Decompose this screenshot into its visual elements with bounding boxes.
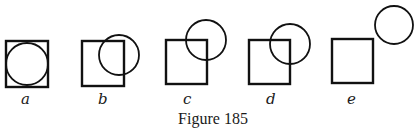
square-e xyxy=(332,39,373,83)
figure-185-diagram: a b c d e Figure 185 xyxy=(0,0,419,129)
circle-a xyxy=(6,43,48,85)
panel-a: a xyxy=(6,41,48,108)
label-c: c xyxy=(183,90,192,108)
figure-caption: Figure 185 xyxy=(178,110,248,128)
panel-d: d xyxy=(249,24,310,108)
panel-c: c xyxy=(166,20,226,108)
label-d: d xyxy=(266,90,276,108)
circle-e xyxy=(375,6,413,44)
label-b: b xyxy=(98,90,108,108)
panel-e: e xyxy=(332,6,413,108)
label-e: e xyxy=(347,90,356,108)
label-a: a xyxy=(21,90,30,108)
square-b xyxy=(82,41,124,86)
panel-b: b xyxy=(82,35,139,108)
